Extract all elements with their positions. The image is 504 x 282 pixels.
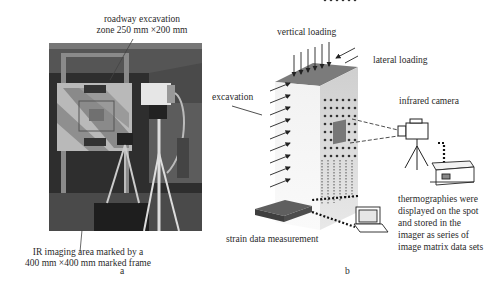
laptop-icon [354, 207, 388, 232]
infrared-camera-icon [398, 119, 428, 170]
thermo-line3: and stored in the [398, 217, 483, 229]
label-vertical-loading: vertical loading [277, 27, 336, 38]
thermo-line5: image matrix data sets [398, 241, 483, 253]
label-excavation: excavation [212, 92, 253, 103]
imager-icon [430, 161, 474, 185]
label-infrared-camera: infrared camera [399, 96, 459, 107]
ir-imaging-area [333, 119, 346, 144]
thermo-line1: thermographies were [398, 193, 483, 205]
label-lateral-loading: lateral loading [373, 55, 428, 66]
thermography-note: thermographies were displayed on the spo… [398, 193, 483, 253]
thermo-line4: imager as series of [398, 229, 483, 241]
label-strain-data: strain data measurement [226, 234, 318, 245]
lateral-load-arrows [336, 48, 358, 63]
panel-label-b: b [345, 266, 350, 277]
thermo-line2: displayed on the spot [398, 205, 483, 217]
